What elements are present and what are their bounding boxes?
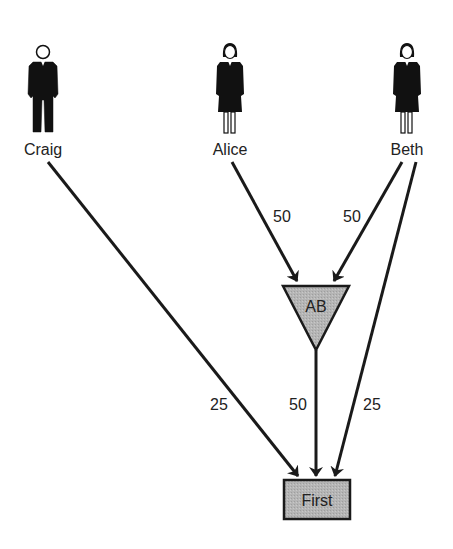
edge-craig-first [48,162,298,476]
node-first-label: First [301,492,333,509]
node-first: First [284,480,350,519]
edge-weight-alice-ab: 50 [273,208,291,225]
edge-weight-craig-first: 25 [210,396,228,413]
node-ab: AB [283,286,349,350]
male-person-icon [28,46,58,133]
female-person-icon [393,43,421,133]
person-beth: Beth [391,43,424,158]
edge-weight-beth-first: 25 [363,396,381,413]
ownership-diagram: Craig Alice Beth 50 50 [0,0,453,549]
node-ab-label: AB [305,298,326,315]
person-alice: Alice [213,43,248,158]
person-label-beth: Beth [391,141,424,158]
person-craig: Craig [24,46,62,159]
edge-weight-ab-first: 50 [289,396,307,413]
female-person-icon [216,43,244,133]
person-label-alice: Alice [213,141,248,158]
edge-weight-beth-ab: 50 [343,208,361,225]
person-label-craig: Craig [24,141,62,158]
